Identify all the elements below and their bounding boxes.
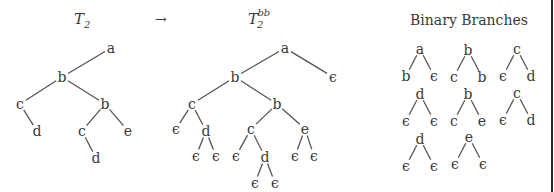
- branch-right-child: ϵ: [430, 158, 438, 174]
- tree-node-c: c: [188, 96, 196, 112]
- binary-branches-grid: abϵbcbcϵddϵϵbcecϵddϵϵeϵϵ: [402, 41, 536, 174]
- tree-node-d: d: [261, 149, 270, 165]
- epsilon-leaf-node: ϵ: [329, 69, 337, 85]
- tree-edge: [87, 109, 101, 125]
- branch-root-node: a: [416, 41, 424, 57]
- tree-node-d: d: [92, 150, 101, 166]
- epsilon-leaf-node: ϵ: [232, 148, 240, 164]
- tree-edge: [68, 81, 99, 101]
- tree-edge: [457, 56, 465, 71]
- branch-right-child: ϵ: [430, 68, 438, 84]
- tree-edge: [458, 143, 466, 158]
- tree-node-e: e: [124, 123, 132, 139]
- branch-left-child: ϵ: [402, 158, 410, 174]
- tree-edge: [409, 100, 417, 115]
- branch-root-node: d: [416, 131, 425, 147]
- right-border-divider: [551, 0, 553, 192]
- tree-node-b: b: [273, 96, 282, 112]
- branch-left-child: ϵ: [451, 156, 459, 172]
- branch-root-node: c: [513, 85, 521, 101]
- tree-node-c: c: [16, 96, 24, 112]
- tree-edge: [68, 52, 105, 74]
- tree-node-a: a: [281, 40, 289, 56]
- middle-tree-title: T2bb: [248, 7, 270, 30]
- epsilon-leaf-node: ϵ: [172, 121, 180, 137]
- tree-node-d: d: [202, 123, 211, 139]
- branch-right-child: ϵ: [430, 113, 438, 129]
- tree-node-b: b: [58, 69, 67, 85]
- binary-branch: bcb: [450, 42, 486, 85]
- tree-edge: [241, 52, 279, 74]
- tree-edge: [506, 55, 514, 70]
- tree-edge: [198, 81, 229, 101]
- branch-root-node: c: [513, 41, 521, 57]
- branch-left-child: c: [450, 113, 458, 129]
- branch-left-child: ϵ: [402, 113, 410, 129]
- binary-branch: abϵ: [402, 41, 439, 84]
- tree-diagram: T2 → T2bb Binary Branches abcdbced aϵbcϵ…: [0, 0, 554, 192]
- tree-edge: [241, 81, 271, 100]
- epsilon-leaf-node: ϵ: [291, 148, 299, 164]
- epsilon-leaf-node: ϵ: [192, 148, 200, 164]
- binary-branches-title: Binary Branches: [410, 12, 528, 28]
- branch-root-node: b: [464, 42, 473, 58]
- epsilon-leaf-node: ϵ: [212, 148, 220, 164]
- tree-edge: [26, 81, 56, 100]
- tree-node-c: c: [78, 123, 86, 139]
- left-tree-title: T2: [74, 10, 90, 30]
- tree-node-a: a: [107, 40, 115, 56]
- branch-root-node: e: [465, 129, 473, 145]
- branch-left-child: c: [450, 69, 458, 85]
- binary-branch: eϵϵ: [451, 129, 487, 172]
- binary-branch: cϵd: [499, 85, 535, 128]
- tree-node-e: e: [301, 121, 309, 137]
- tree-edge: [409, 145, 417, 160]
- tree-edge: [282, 109, 300, 125]
- branch-left-child: b: [402, 68, 411, 84]
- branch-right-child: d: [527, 68, 536, 84]
- diagram-canvas: T2 → T2bb Binary Branches abcdbced aϵbcϵ…: [0, 0, 554, 192]
- tree-t2-bb: aϵbcϵdϵϵbcϵdϵϵeϵϵ: [172, 40, 337, 191]
- tree-node-c: c: [247, 121, 255, 137]
- binary-branch: dϵϵ: [402, 86, 438, 129]
- tree-edge: [110, 109, 124, 125]
- tree-edge: [291, 52, 327, 74]
- branch-right-child: e: [478, 113, 486, 129]
- epsilon-leaf-node: ϵ: [271, 175, 279, 191]
- tree-edge: [457, 100, 465, 115]
- branch-left-child: ϵ: [499, 112, 507, 128]
- tree-edge: [256, 109, 272, 124]
- tree-edge: [180, 110, 188, 123]
- branch-left-child: ϵ: [499, 68, 507, 84]
- tree-edge: [239, 135, 247, 150]
- binary-branch: bce: [450, 86, 486, 129]
- branch-root-node: d: [416, 86, 425, 102]
- epsilon-leaf-node: ϵ: [251, 175, 259, 191]
- branch-root-node: b: [464, 86, 473, 102]
- tree-edge: [506, 99, 514, 114]
- tree-t2: abcdbced: [16, 40, 132, 166]
- branch-right-child: d: [527, 112, 536, 128]
- binary-branch: cϵd: [499, 41, 535, 84]
- branch-right-child: ϵ: [479, 156, 487, 172]
- arrow-icon: →: [155, 11, 167, 27]
- tree-node-b: b: [231, 69, 240, 85]
- tree-node-b: b: [101, 96, 110, 112]
- binary-branch: dϵϵ: [402, 131, 438, 174]
- epsilon-leaf-node: ϵ: [310, 148, 318, 164]
- tree-node-d: d: [33, 123, 42, 139]
- branch-right-child: b: [478, 69, 487, 85]
